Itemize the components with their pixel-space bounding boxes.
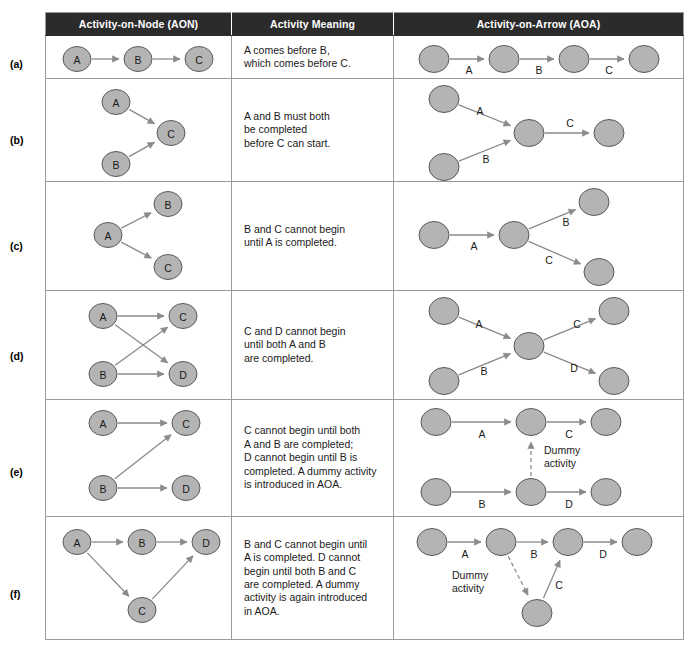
svg-text:D: D bbox=[570, 362, 578, 374]
svg-text:A: A bbox=[73, 54, 80, 66]
aoa-diagram-cell: ABDCDummyactivity bbox=[394, 517, 684, 640]
svg-text:B: B bbox=[535, 64, 542, 76]
svg-text:A: A bbox=[112, 97, 119, 109]
svg-text:A: A bbox=[476, 105, 483, 117]
meaning-line: A comes before B, bbox=[244, 44, 385, 57]
svg-text:C: C bbox=[164, 262, 172, 274]
svg-text:B: B bbox=[478, 498, 485, 510]
svg-text:activity: activity bbox=[452, 582, 485, 594]
svg-text:B: B bbox=[562, 216, 569, 228]
meaning-line: completed. A dummy activity bbox=[244, 465, 385, 478]
meaning-line: are completed. A dummy bbox=[244, 578, 385, 591]
aoa-diagram-cell: ABCD bbox=[394, 291, 684, 400]
svg-text:A: A bbox=[99, 418, 106, 430]
svg-text:C: C bbox=[545, 254, 553, 266]
aoa-diagram: ABCD bbox=[394, 291, 683, 399]
svg-text:activity: activity bbox=[544, 457, 577, 469]
svg-text:C: C bbox=[573, 318, 581, 330]
aon-diagram-cell: ACBD bbox=[46, 400, 232, 517]
meaning-line: until both A and B bbox=[244, 338, 385, 351]
aon-diagram-cell: ACB bbox=[46, 79, 232, 182]
activity-meaning-cell: C cannot begin until bothA and B are com… bbox=[232, 400, 394, 517]
aoa-diagram: ABC bbox=[394, 36, 683, 78]
svg-text:C: C bbox=[182, 418, 190, 430]
svg-text:B: B bbox=[164, 199, 171, 211]
row-label-c: (c) bbox=[10, 240, 40, 252]
meaning-line: is introduced in AOA. bbox=[244, 478, 385, 491]
activity-meaning-cell: A comes before B,which comes before C. bbox=[232, 36, 394, 79]
activity-meaning-cell: A and B must bothbe completedbefore C ca… bbox=[232, 79, 394, 182]
table-body: ABCA comes before B,which comes before C… bbox=[46, 36, 684, 640]
svg-text:A: A bbox=[99, 311, 106, 323]
meaning-line: D cannot begin until B is bbox=[244, 451, 385, 464]
svg-text:A: A bbox=[470, 240, 477, 252]
table-row: BACB and C cannot beginuntil A is comple… bbox=[46, 182, 684, 291]
meaning-line: until A is completed. bbox=[244, 236, 385, 249]
table-row: ACBDC cannot begin until bothA and B are… bbox=[46, 400, 684, 517]
svg-text:A: A bbox=[465, 64, 472, 76]
header-aoa: Activity-on-Arrow (AOA) bbox=[394, 13, 684, 36]
aon-diagram-cell: ABDC bbox=[46, 517, 232, 640]
meaning-line: B and C cannot begin until bbox=[244, 538, 385, 551]
meaning-line: A and B must both bbox=[244, 110, 385, 123]
aoa-diagram-cell: ABC bbox=[394, 79, 684, 182]
meaning-line: A and B are completed; bbox=[244, 438, 385, 451]
svg-text:B: B bbox=[99, 483, 106, 495]
svg-text:B: B bbox=[480, 365, 487, 377]
svg-text:B: B bbox=[134, 54, 141, 66]
meaning-line: before C can start. bbox=[244, 137, 385, 150]
meaning-line: C cannot begin until both bbox=[244, 424, 385, 437]
aoa-diagram: ABC bbox=[394, 79, 683, 181]
activity-meaning-cell: C and D cannot beginuntil both A and Bar… bbox=[232, 291, 394, 400]
table-row: ACBA and B must bothbe completedbefore C… bbox=[46, 79, 684, 182]
svg-text:C: C bbox=[179, 311, 187, 323]
aoa-diagram-cell: ABC bbox=[394, 182, 684, 291]
table-row: ABDCB and C cannot begin untilA is compl… bbox=[46, 517, 684, 640]
header-activity-meaning: Activity Meaning bbox=[232, 13, 394, 36]
svg-text:A: A bbox=[475, 318, 482, 330]
meaning-line: A is completed. D cannot bbox=[244, 551, 385, 564]
svg-text:B: B bbox=[530, 548, 537, 560]
svg-text:A: A bbox=[478, 428, 485, 440]
aoa-diagram: ABDCDummyactivity bbox=[394, 517, 683, 639]
svg-text:Dummy: Dummy bbox=[452, 569, 489, 581]
meaning-line: B and C cannot begin bbox=[244, 223, 385, 236]
aon-diagram-cell: ACBD bbox=[46, 291, 232, 400]
header-aon: Activity-on-Node (AON) bbox=[46, 13, 232, 36]
aon-diagram: ABDC bbox=[46, 517, 231, 639]
aon-diagram: ACB bbox=[46, 79, 231, 181]
svg-text:C: C bbox=[565, 428, 573, 440]
aoa-diagram: ACBDDummyactivity bbox=[394, 400, 683, 516]
svg-text:B: B bbox=[482, 153, 489, 165]
svg-text:B: B bbox=[99, 369, 106, 381]
table-row: ABCA comes before B,which comes before C… bbox=[46, 36, 684, 79]
svg-text:D: D bbox=[179, 369, 187, 381]
header-row: Activity-on-Node (AON) Activity Meaning … bbox=[46, 13, 684, 36]
meaning-line: be completed bbox=[244, 123, 385, 136]
table-header: Activity-on-Node (AON) Activity Meaning … bbox=[46, 13, 684, 36]
svg-text:C: C bbox=[605, 64, 613, 76]
svg-text:C: C bbox=[138, 605, 146, 617]
svg-text:C: C bbox=[566, 117, 574, 129]
meaning-line: in AOA. bbox=[244, 605, 385, 618]
svg-text:A: A bbox=[461, 548, 468, 560]
aon-diagram-cell: ABC bbox=[46, 36, 232, 79]
svg-text:B: B bbox=[138, 537, 145, 549]
meaning-line: C and D cannot begin bbox=[244, 325, 385, 338]
aoa-diagram: ABC bbox=[394, 182, 683, 290]
svg-text:D: D bbox=[599, 548, 607, 560]
svg-text:A: A bbox=[104, 230, 111, 242]
row-label-b: (b) bbox=[10, 134, 40, 146]
svg-text:D: D bbox=[182, 483, 190, 495]
table-row: ACBDC and D cannot beginuntil both A and… bbox=[46, 291, 684, 400]
row-label-a: (a) bbox=[10, 58, 40, 70]
svg-text:D: D bbox=[565, 498, 573, 510]
svg-text:D: D bbox=[202, 537, 210, 549]
aon-diagram-cell: BAC bbox=[46, 182, 232, 291]
row-label-e: (e) bbox=[10, 466, 40, 478]
svg-text:C: C bbox=[555, 579, 563, 591]
figure-page: (a) (b) (c) (d) (e) (f) Activity-on-Node… bbox=[0, 0, 700, 665]
row-label-f: (f) bbox=[10, 588, 40, 600]
activity-meaning-cell: B and C cannot begin untilA is completed… bbox=[232, 517, 394, 640]
aoa-diagram-cell: ABC bbox=[394, 36, 684, 79]
